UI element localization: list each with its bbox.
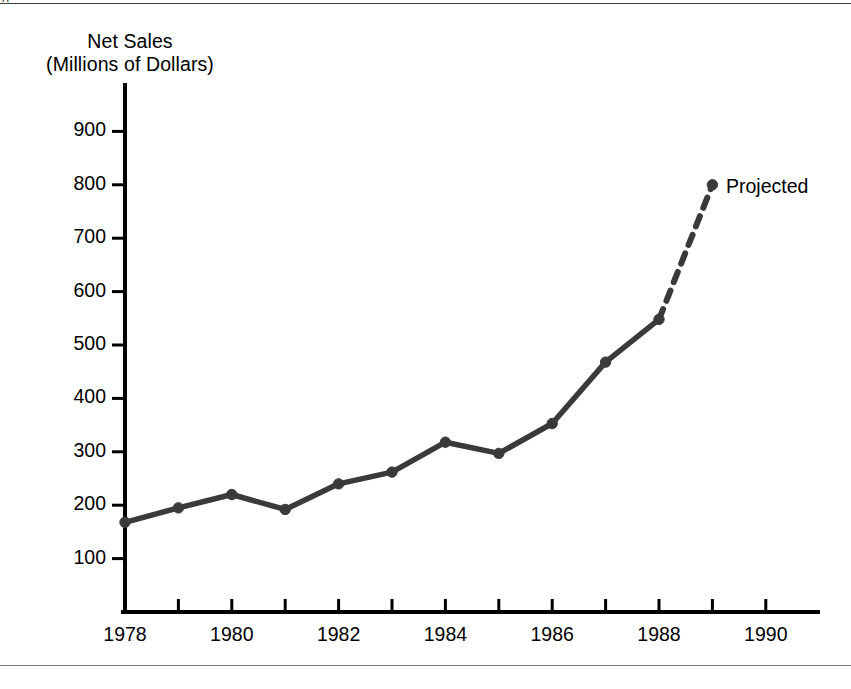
chart-axes — [123, 85, 818, 612]
y-tick-label: 200 — [50, 494, 106, 513]
figure-frame: g Net Sales (Millions of Dollars) 100200… — [0, 0, 851, 689]
data-point-marker — [494, 448, 504, 458]
series-line-projected — [659, 185, 712, 320]
data-point-marker — [333, 479, 343, 489]
data-point-marker — [120, 517, 130, 527]
data-point-marker — [280, 504, 290, 514]
data-point-marker — [547, 418, 557, 428]
y-tick-label: 500 — [50, 334, 106, 353]
data-point-marker — [654, 314, 664, 324]
data-point-marker — [600, 357, 610, 367]
x-tick-label: 1986 — [517, 625, 587, 644]
x-tick-label: 1980 — [197, 625, 267, 644]
x-tick-label: 1978 — [90, 625, 160, 644]
y-tick-label: 600 — [50, 281, 106, 300]
y-tick-label: 300 — [50, 441, 106, 460]
projected-annotation-label: Projected — [726, 175, 808, 198]
y-tick-label: 100 — [50, 548, 106, 567]
chart-series — [125, 185, 712, 522]
data-point-marker — [387, 467, 397, 477]
x-tick-label: 1990 — [731, 625, 801, 644]
chart-plot-area: Net Sales (Millions of Dollars) 10020030… — [0, 0, 851, 689]
x-tick-label: 1984 — [410, 625, 480, 644]
x-tick-label: 1982 — [304, 625, 374, 644]
line-chart-svg — [0, 0, 851, 689]
chart-data-markers — [120, 180, 718, 528]
x-tick-label: 1988 — [624, 625, 694, 644]
data-point-marker — [227, 489, 237, 499]
y-tick-label: 700 — [50, 227, 106, 246]
y-tick-label: 400 — [50, 387, 106, 406]
y-tick-label: 900 — [50, 120, 106, 139]
data-point-marker — [173, 503, 183, 513]
data-point-marker — [707, 180, 717, 190]
series-line-net sales — [125, 319, 659, 522]
y-tick-label: 800 — [50, 174, 106, 193]
data-point-marker — [440, 437, 450, 447]
